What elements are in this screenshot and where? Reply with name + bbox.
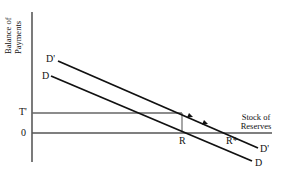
d-prime-end-label: D' <box>260 144 269 154</box>
d-prime-start-label: D' <box>46 54 55 64</box>
origin-label: 0 <box>21 128 26 138</box>
arrow-head-icon <box>187 113 193 118</box>
t-prime-label: T' <box>19 107 27 117</box>
x-axis-label-line2: Reserves <box>236 122 276 131</box>
d-end-label: D <box>255 158 262 168</box>
y-axis-label-line1: Balance of <box>4 17 13 54</box>
r-label: R <box>179 136 186 146</box>
d-curve <box>51 76 252 161</box>
d-start-label: D <box>42 71 49 81</box>
r-star-label: R* <box>226 136 238 146</box>
balance-of-payments-diagram <box>0 0 284 176</box>
arrow-head-icon <box>202 120 208 125</box>
y-axis-label: Balance of Payments <box>2 10 32 54</box>
y-axis-label-line2: Payments <box>14 21 23 54</box>
x-axis-label: Stock of Reserves <box>236 113 276 131</box>
